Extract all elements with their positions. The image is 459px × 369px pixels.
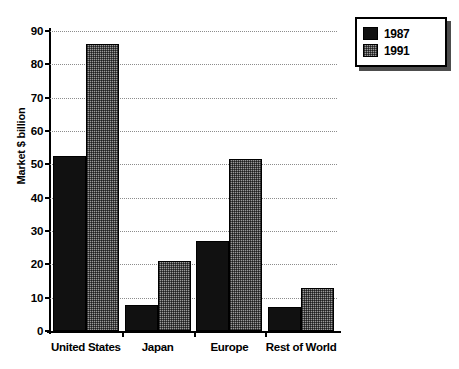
y-axis-tick-mark [45, 97, 50, 99]
y-axis-title: Market $ billion [15, 81, 27, 211]
legend-label-1987: 1987 [384, 27, 410, 41]
y-axis-tick-mark [45, 30, 50, 32]
x-axis-category-label: Europe [210, 341, 248, 353]
y-axis-tick-mark [45, 130, 50, 132]
bar-1987-united-states [53, 156, 86, 331]
legend-item-1991: 1991 [363, 42, 438, 59]
bar-1991-europe [229, 159, 262, 331]
y-axis-tick-label: 30 [31, 225, 43, 237]
x-axis-category-label: Rest of World [266, 341, 337, 353]
x-axis-tick-mark [122, 331, 124, 337]
y-axis-tick-mark [45, 263, 50, 265]
y-axis-tick-mark [45, 230, 50, 232]
y-axis-tick-label: 40 [31, 192, 43, 204]
y-axis-tick-label: 80 [31, 58, 43, 70]
bar-1987-rest-of-world [268, 307, 301, 331]
y-axis-tick-mark [45, 330, 50, 332]
bar-chart: Market $ billion 0102030405060708090 Uni… [0, 0, 459, 369]
bar-1987-japan [125, 305, 158, 331]
x-axis-category-label: Japan [142, 341, 174, 353]
y-axis-tick-label: 0 [37, 325, 43, 337]
legend-label-1991: 1991 [384, 44, 410, 58]
bar-1991-united-states [86, 44, 119, 331]
chart-legend: 1987 1991 [355, 17, 447, 67]
bar-1987-europe [196, 241, 229, 331]
bar-1991-rest-of-world [301, 288, 334, 331]
y-axis-tick-mark [45, 197, 50, 199]
y-axis-tick-mark [45, 63, 50, 65]
y-axis-tick-label: 20 [31, 258, 43, 270]
legend-swatch-1991-icon [363, 44, 378, 57]
x-axis-tick-mark [265, 331, 267, 337]
x-axis-category-label: United States [51, 341, 121, 353]
y-axis-tick-label: 60 [31, 125, 43, 137]
y-axis-tick-mark [45, 297, 50, 299]
y-axis-tick-label: 50 [31, 158, 43, 170]
y-axis-tick-label: 90 [31, 25, 43, 37]
y-axis-tick-label: 70 [31, 92, 43, 104]
y-axis-line [49, 28, 51, 334]
y-axis-tick-mark [45, 163, 50, 165]
gridline [50, 31, 337, 32]
legend-swatch-1987-icon [363, 27, 378, 40]
bar-1991-japan [158, 261, 191, 331]
legend-item-1987: 1987 [363, 25, 438, 42]
y-axis-tick-label: 10 [31, 292, 43, 304]
plot-area: 0102030405060708090 United StatesJapanEu… [50, 31, 337, 331]
x-axis-tick-mark [194, 331, 196, 337]
